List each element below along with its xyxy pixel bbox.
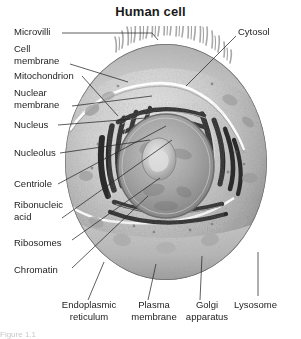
label-golgi-apparatus: Golgi apparatus <box>184 299 230 322</box>
bottom-caption-fragment: Figure 1.1 <box>0 330 301 339</box>
label-cytosol-line-1: Cytosol <box>238 26 270 38</box>
label-endoplasmic-reticulum-line-1: Endoplasmic <box>56 299 122 311</box>
label-cell-membrane-line-1: Cell <box>14 43 59 55</box>
label-mitochondrion: Mitochondrion <box>14 70 74 82</box>
label-ribosomes: Ribosomes <box>14 237 62 249</box>
label-chromatin: Chromatin <box>14 264 58 276</box>
label-chromatin-line-1: Chromatin <box>14 264 58 276</box>
label-nucleolus: Nucleolus <box>14 147 56 159</box>
label-microvilli: Microvilli <box>14 26 50 38</box>
label-lysosome: Lysosome <box>234 299 277 311</box>
label-nucleus: Nucleus <box>14 119 48 131</box>
label-endoplasmic-reticulum-line-2: reticulum <box>56 311 122 323</box>
figure-title: Human cell <box>0 4 301 19</box>
label-microvilli-line-1: Microvilli <box>14 26 50 38</box>
label-centriole: Centriole <box>14 178 52 190</box>
label-ribonucleic-acid-line-1: Ribonucleic <box>14 199 63 211</box>
label-cell-membrane: Cell membrane <box>14 43 59 66</box>
label-nuclear-membrane-line-1: Nuclear <box>14 87 59 99</box>
label-ribosomes-line-1: Ribosomes <box>14 237 62 249</box>
label-lysosome-line-1: Lysosome <box>234 299 277 311</box>
label-ribonucleic-acid-line-2: acid <box>14 211 63 223</box>
nucleus-structure <box>118 114 214 218</box>
label-nuclear-membrane: Nuclear membrane <box>14 87 59 110</box>
human-cell-figure: Human cell <box>0 0 301 339</box>
label-endoplasmic-reticulum: Endoplasmic reticulum <box>56 299 122 322</box>
label-nucleolus-line-1: Nucleolus <box>14 147 56 159</box>
label-golgi-apparatus-line-1: Golgi <box>184 299 230 311</box>
label-mitochondrion-line-1: Mitochondrion <box>14 70 74 82</box>
label-cell-membrane-line-2: membrane <box>14 55 59 67</box>
label-ribonucleic-acid: Ribonucleic acid <box>14 199 63 222</box>
label-plasma-membrane-line-1: Plasma <box>126 299 182 311</box>
label-golgi-apparatus-line-2: apparatus <box>184 311 230 323</box>
label-centriole-line-1: Centriole <box>14 178 52 190</box>
cell-illustration <box>62 26 277 294</box>
label-cytosol: Cytosol <box>238 26 270 38</box>
label-nucleus-line-1: Nucleus <box>14 119 48 131</box>
label-plasma-membrane: Plasma membrane <box>126 299 182 322</box>
label-nuclear-membrane-line-2: membrane <box>14 99 59 111</box>
label-plasma-membrane-line-2: membrane <box>126 311 182 323</box>
